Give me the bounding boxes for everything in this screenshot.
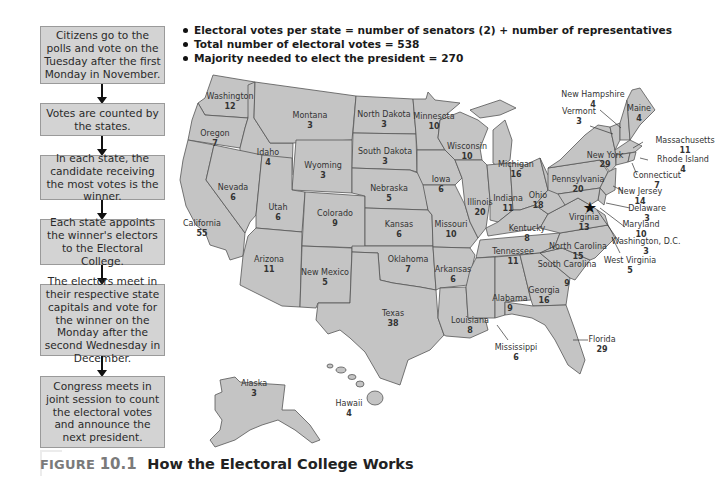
- arrow-down-icon: [101, 356, 103, 375]
- svg-text:New York: New York: [587, 151, 624, 160]
- flow-step-vote: Citizens go to the polls and vote on the…: [40, 26, 165, 84]
- svg-text:Washington: Washington: [206, 92, 253, 101]
- svg-text:12: 12: [224, 102, 235, 111]
- svg-text:5: 5: [322, 278, 328, 287]
- bullet-icon: [183, 28, 188, 33]
- svg-text:6: 6: [450, 275, 456, 284]
- svg-text:South Dakota: South Dakota: [358, 147, 412, 156]
- svg-text:3: 3: [307, 121, 313, 130]
- svg-text:California: California: [183, 219, 221, 228]
- bullet-icon: [183, 56, 188, 61]
- fact-item: Majority needed to elect the president =…: [183, 51, 672, 65]
- svg-text:8: 8: [524, 234, 530, 243]
- svg-text:11: 11: [502, 204, 514, 213]
- svg-text:Georgia: Georgia: [528, 286, 559, 295]
- svg-text:Florida: Florida: [588, 335, 615, 344]
- arrow-down-icon: [101, 84, 103, 102]
- svg-text:Illinois: Illinois: [467, 198, 492, 207]
- fact-item: Electoral votes per state = number of se…: [183, 23, 672, 37]
- svg-text:Arizona: Arizona: [254, 255, 284, 264]
- svg-text:Montana: Montana: [293, 111, 328, 120]
- arrow-down-icon: [101, 200, 103, 218]
- svg-text:4: 4: [265, 158, 271, 167]
- svg-text:Texas: Texas: [381, 309, 404, 318]
- figure-number: 10.1: [100, 455, 137, 473]
- flow-step-appoint: Each state appoints the winner's elector…: [40, 219, 165, 265]
- svg-text:Ohio: Ohio: [529, 191, 548, 200]
- svg-text:Alabama: Alabama: [492, 294, 527, 303]
- svg-text:6: 6: [275, 213, 281, 222]
- svg-text:Idaho: Idaho: [257, 148, 279, 157]
- state-new-mexico: [300, 246, 352, 308]
- svg-text:Pennsylvania: Pennsylvania: [552, 175, 605, 184]
- figure-label: FIGURE: [40, 457, 95, 472]
- svg-text:Nevada: Nevada: [218, 183, 249, 192]
- svg-text:Mississippi: Mississippi: [495, 343, 538, 352]
- flow-step-congress: Congress meets in joint session to count…: [40, 376, 165, 448]
- svg-text:9: 9: [564, 279, 570, 288]
- svg-text:Minnesota: Minnesota: [413, 112, 454, 121]
- svg-text:Delaware: Delaware: [628, 204, 666, 213]
- state-hawaii: [367, 391, 383, 405]
- svg-text:Kansas: Kansas: [385, 220, 413, 229]
- svg-text:7: 7: [405, 265, 411, 274]
- svg-text:Washington, D.C.: Washington, D.C.: [612, 237, 681, 246]
- svg-text:4: 4: [680, 165, 686, 174]
- svg-text:18: 18: [532, 201, 544, 210]
- svg-text:55: 55: [196, 229, 208, 238]
- svg-text:Louisiana: Louisiana: [451, 316, 489, 325]
- svg-text:9: 9: [332, 219, 338, 228]
- svg-text:4: 4: [346, 409, 352, 418]
- svg-text:Alaska: Alaska: [241, 379, 267, 388]
- svg-text:New Hampshire: New Hampshire: [561, 90, 624, 99]
- svg-text:Iowa: Iowa: [432, 175, 451, 184]
- figure-caption: FIGURE 10.1 How the Electoral College Wo…: [40, 455, 414, 473]
- svg-text:Tennessee: Tennessee: [491, 247, 534, 256]
- svg-text:29: 29: [596, 345, 608, 354]
- svg-text:Kentucky: Kentucky: [509, 224, 546, 233]
- svg-text:13: 13: [578, 223, 589, 232]
- svg-text:Virginia: Virginia: [569, 213, 599, 222]
- svg-text:6: 6: [396, 230, 402, 239]
- svg-text:Arkansas: Arkansas: [435, 265, 471, 274]
- flow-step-count: Votes are counted by the states.: [40, 103, 165, 136]
- svg-text:6: 6: [513, 353, 519, 362]
- svg-text:3: 3: [382, 157, 388, 166]
- svg-text:10: 10: [445, 230, 457, 239]
- svg-text:Wisconsin: Wisconsin: [447, 142, 487, 151]
- figure-title: How the Electoral College Works: [147, 456, 413, 472]
- svg-text:Maryland: Maryland: [622, 220, 659, 229]
- svg-text:Maine: Maine: [627, 104, 651, 113]
- flow-step-winner: In each state, the candidate receiving t…: [40, 155, 165, 200]
- svg-text:9: 9: [507, 304, 513, 313]
- svg-text:4: 4: [590, 100, 596, 109]
- svg-text:38: 38: [387, 319, 399, 328]
- svg-text:3: 3: [381, 120, 387, 129]
- svg-text:6: 6: [438, 185, 444, 194]
- svg-text:3: 3: [576, 117, 582, 126]
- svg-text:Oklahoma: Oklahoma: [388, 255, 429, 264]
- svg-text:Indiana: Indiana: [493, 194, 523, 203]
- svg-text:4: 4: [636, 114, 642, 123]
- state-florida: [505, 302, 585, 374]
- svg-text:New Mexico: New Mexico: [301, 268, 349, 277]
- bullet-icon: [183, 42, 188, 47]
- svg-text:8: 8: [467, 326, 473, 335]
- facts-list: Electoral votes per state = number of se…: [183, 23, 672, 65]
- svg-text:North Carolina: North Carolina: [549, 242, 607, 251]
- fact-item: Total number of electoral votes = 538: [183, 37, 672, 51]
- svg-text:5: 5: [627, 266, 633, 275]
- svg-text:7: 7: [212, 139, 218, 148]
- svg-text:20: 20: [474, 208, 486, 217]
- svg-text:Oregon: Oregon: [200, 129, 229, 138]
- svg-text:North Dakota: North Dakota: [357, 110, 410, 119]
- svg-text:Colorado: Colorado: [317, 209, 353, 218]
- svg-text:Missouri: Missouri: [435, 220, 468, 229]
- svg-text:11: 11: [679, 146, 691, 155]
- svg-text:16: 16: [538, 296, 550, 305]
- svg-text:16: 16: [510, 170, 522, 179]
- svg-text:15: 15: [572, 252, 584, 261]
- svg-text:Rhode Island: Rhode Island: [657, 155, 709, 164]
- svg-text:New Jersey: New Jersey: [618, 187, 663, 196]
- flow-step-electors-meet: The electors meet in their respective st…: [40, 284, 165, 356]
